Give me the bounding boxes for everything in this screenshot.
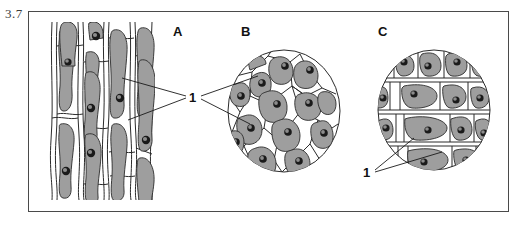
panel-a-illustration <box>48 22 155 203</box>
panel-letter-a: A <box>173 24 182 39</box>
callout-label-c: 1 <box>363 165 370 180</box>
callout-label-ab: 1 <box>189 90 196 105</box>
panel-c-illustration <box>372 50 492 174</box>
panel-b-illustration <box>225 50 340 186</box>
figure-page: 3.7 <box>0 0 523 226</box>
panel-letter-c: C <box>378 24 387 39</box>
panel-letter-b: B <box>241 24 250 39</box>
figure-illustration <box>0 0 523 226</box>
